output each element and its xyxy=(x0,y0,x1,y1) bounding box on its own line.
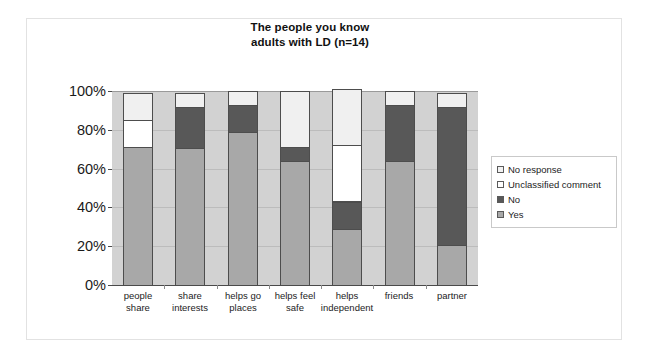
x-axis-label-line: partner xyxy=(418,290,486,302)
plot-area xyxy=(112,91,478,285)
bar-segment-No-response[interactable] xyxy=(175,93,205,108)
bar-segment-Unclassified-comment[interactable] xyxy=(123,120,153,148)
x-axis-label-partner: partner xyxy=(418,290,486,302)
bar-segment-Yes[interactable] xyxy=(175,147,205,286)
y-axis-tick-label: 80% xyxy=(44,123,106,138)
y-axis-tick xyxy=(108,285,112,286)
x-axis-tick xyxy=(426,285,427,289)
bar-segment-No-response[interactable] xyxy=(280,91,310,148)
y-axis-tick xyxy=(108,169,112,170)
chart-title-line-1: The people you know xyxy=(251,21,370,33)
bar-segment-Yes[interactable] xyxy=(123,147,153,286)
legend-item-label: No response xyxy=(508,165,562,175)
bar-segment-No[interactable] xyxy=(385,105,415,162)
x-axis-labels: peopleshareshareinterestshelps goplacesh… xyxy=(112,290,478,324)
x-axis-tick xyxy=(321,285,322,289)
x-axis-line xyxy=(112,285,478,286)
x-axis-tick xyxy=(269,285,270,289)
x-axis-tick xyxy=(217,285,218,289)
bar-helps-feel-safe[interactable] xyxy=(280,91,310,285)
bar-segment-No[interactable] xyxy=(228,105,258,133)
legend-item-label: Unclassified comment xyxy=(508,180,601,190)
bar-segment-Yes[interactable] xyxy=(332,229,362,286)
x-axis-label-line: independent xyxy=(313,302,381,314)
bar-segment-No-response[interactable] xyxy=(123,93,153,121)
legend-item-label: No xyxy=(508,195,520,205)
y-axis-tick-label: 100% xyxy=(44,84,106,99)
bar-partner[interactable] xyxy=(437,91,467,285)
bar-segment-Yes[interactable] xyxy=(385,161,415,286)
bar-people-share[interactable] xyxy=(123,91,153,285)
bar-segment-No[interactable] xyxy=(175,107,205,149)
bar-segment-No-response[interactable] xyxy=(228,91,258,106)
bar-segment-No-response[interactable] xyxy=(385,91,415,106)
bar-segment-No-response[interactable] xyxy=(332,89,362,146)
x-axis-tick xyxy=(373,285,374,289)
y-axis-tick xyxy=(108,91,112,92)
chart-title: The people you know adults with LD (n=14… xyxy=(120,20,500,50)
legend-swatch-icon xyxy=(497,166,504,173)
legend-item-unclassified-comment[interactable]: Unclassified comment xyxy=(497,177,612,192)
y-axis-tick-label: 0% xyxy=(44,278,106,293)
bar-segment-Yes[interactable] xyxy=(280,161,310,286)
legend-swatch-icon xyxy=(497,211,504,218)
y-axis-tick xyxy=(108,207,112,208)
chart-figure: The people you know adults with LD (n=14… xyxy=(0,0,648,356)
bar-segment-Yes[interactable] xyxy=(228,132,258,286)
bar-segment-Unclassified-comment[interactable] xyxy=(332,145,362,202)
legend-item-no[interactable]: No xyxy=(497,192,612,207)
x-axis-tick xyxy=(164,285,165,289)
y-axis-tick xyxy=(108,130,112,131)
bar-share-interests[interactable] xyxy=(175,91,205,285)
legend-item-label: Yes xyxy=(508,210,524,220)
chart-legend: No responseUnclassified commentNoYes xyxy=(491,156,617,228)
legend-item-no-response[interactable]: No response xyxy=(497,162,612,177)
y-axis-tick-label: 20% xyxy=(44,239,106,254)
y-axis-labels: 0%20%40%60%80%100% xyxy=(38,0,106,356)
bar-segment-Yes[interactable] xyxy=(437,244,467,286)
chart-title-line-2: adults with LD (n=14) xyxy=(120,35,500,50)
legend-item-yes[interactable]: Yes xyxy=(497,207,612,222)
bar-segment-No[interactable] xyxy=(280,147,310,162)
bar-segment-No[interactable] xyxy=(437,107,467,246)
bar-segment-No-response[interactable] xyxy=(437,93,467,108)
y-axis-tick-label: 60% xyxy=(44,162,106,177)
bar-helps-go-places[interactable] xyxy=(228,91,258,285)
bar-friends[interactable] xyxy=(385,91,415,285)
legend-swatch-icon xyxy=(497,196,504,203)
y-axis-tick xyxy=(108,246,112,247)
bar-segment-No[interactable] xyxy=(332,202,362,230)
bar-helps-independent[interactable] xyxy=(332,91,362,285)
legend-swatch-icon xyxy=(497,181,504,188)
y-axis-tick-label: 40% xyxy=(44,200,106,215)
